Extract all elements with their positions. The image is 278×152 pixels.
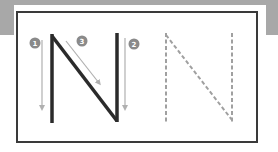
- badge-1: 1: [30, 38, 41, 49]
- solid-letter-n: [52, 33, 117, 123]
- badge-label-1: 1: [33, 40, 38, 48]
- badge-label-3: 3: [80, 38, 85, 46]
- dashed-diagonal: [166, 35, 232, 120]
- stroke-arrows: [42, 38, 125, 108]
- stroke-order-diagram: 1 3 2: [0, 0, 278, 152]
- badge-label-2: 2: [132, 41, 137, 49]
- badge-3: 3: [77, 36, 88, 47]
- diagonal-stroke: [52, 36, 117, 121]
- badge-2: 2: [129, 39, 140, 50]
- dashed-letter-n: [166, 33, 232, 122]
